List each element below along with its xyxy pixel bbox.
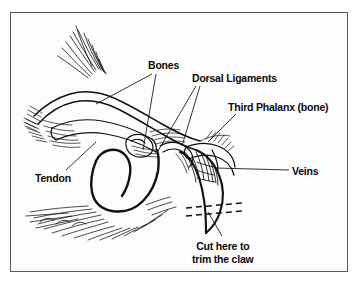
label-bones: Bones [148,59,179,72]
figure-border-frame [10,12,348,272]
label-veins: Veins [292,165,318,178]
label-cut-line-2: trim the claw [192,253,254,266]
label-cut-here: Cut here totrim the claw [192,240,254,265]
label-tendon: Tendon [35,172,71,185]
figure-root: Bones Dorsal Ligaments Third Phalanx (bo… [0,0,364,286]
label-third-phalanx: Third Phalanx (bone) [228,101,328,114]
label-dorsal-ligaments: Dorsal Ligaments [192,72,277,85]
label-cut-line-1: Cut here to [196,240,249,252]
